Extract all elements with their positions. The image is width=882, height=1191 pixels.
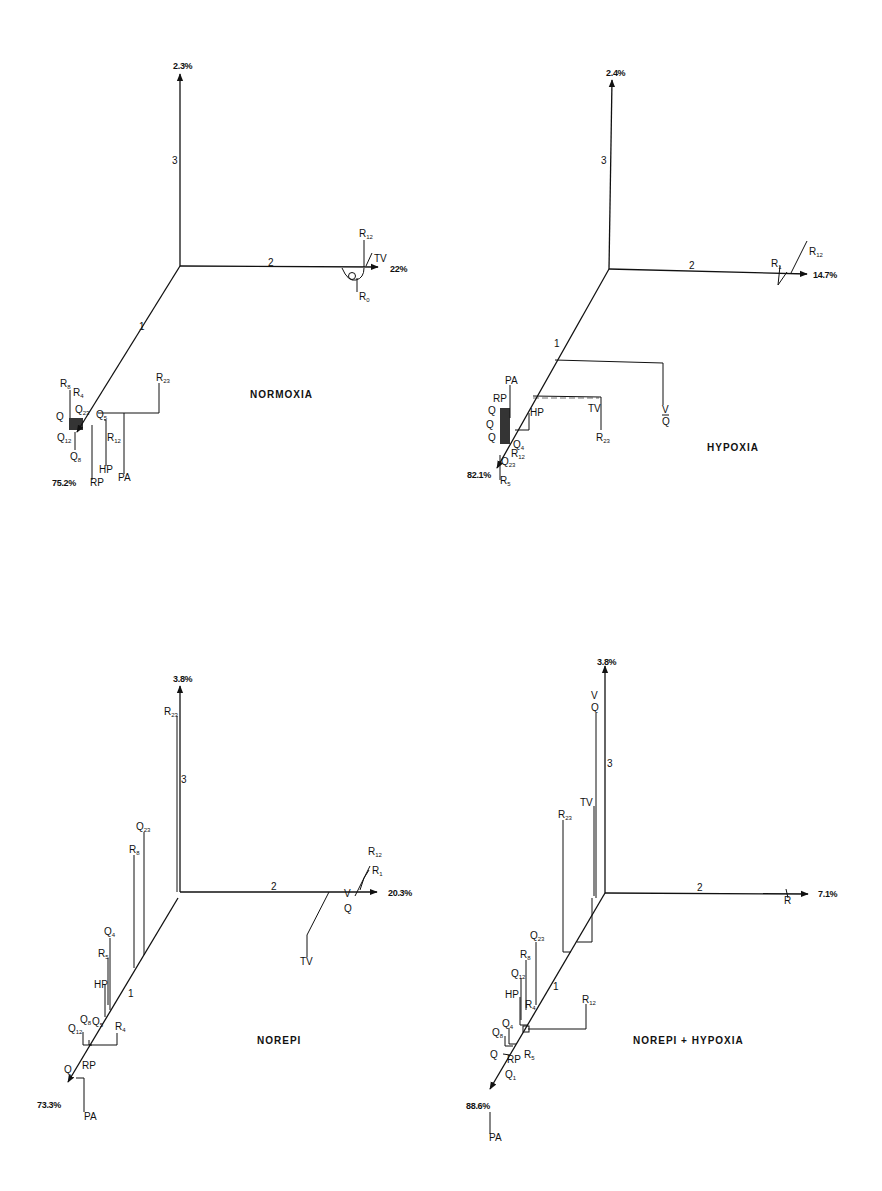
point-label: TV <box>580 797 593 808</box>
axis-3-variance: 2.4% <box>606 68 626 78</box>
point-label: HP <box>530 407 544 418</box>
axis-1-variance: 88.6% <box>466 1101 490 1111</box>
point-label: Q <box>56 411 64 422</box>
point-label: Q5 <box>92 1016 104 1028</box>
point-label: R8 <box>129 844 140 856</box>
point-label: R1 <box>372 865 383 877</box>
point-label: V <box>662 404 669 415</box>
panel-norepi-hypoxia: 3.8% 7.1% 88.6% 3 2 1 NOREPI + HYPOXIA V… <box>466 657 838 1143</box>
axis-2-label: 2 <box>268 257 274 268</box>
axis-1-variance: 82.1% <box>467 470 491 480</box>
axis-1-label: 1 <box>139 321 145 332</box>
axis-3 <box>609 80 612 269</box>
panel-title: NORMOXIA <box>250 389 313 400</box>
point-label: Q8 <box>80 1014 92 1026</box>
point-label: R5 <box>98 948 109 960</box>
point-label: R <box>784 895 791 906</box>
axis-3-label: 3 <box>601 155 607 166</box>
point-label: Q12 <box>511 968 526 980</box>
axis-1-label: 1 <box>553 981 559 992</box>
point-label: Q12 <box>57 432 72 444</box>
panel-title: NOREPI <box>257 1035 301 1046</box>
point-label: R8 <box>520 949 531 961</box>
point-label: R4 <box>115 1021 126 1033</box>
point-label: Q <box>591 702 599 713</box>
point-label: R23 <box>558 809 573 821</box>
axis-1 <box>77 266 180 432</box>
point-label: Q1 <box>505 1069 517 1081</box>
axis-1 <box>68 898 178 1082</box>
point-label: Q <box>662 416 670 427</box>
panel-norepi: 3.8% 20.3% 73.3% 3 2 1 NOREPI R23 Q23 R8… <box>37 674 412 1122</box>
point-label: R12 <box>809 246 824 258</box>
point-label: Q4 <box>104 926 116 938</box>
point-label: TV <box>588 403 601 414</box>
axis-2-variance: 20.3% <box>388 888 412 898</box>
axis-2-variance: 7.1% <box>818 889 838 899</box>
point-label: TV <box>374 253 387 264</box>
axis-2-label: 2 <box>697 882 703 893</box>
point-label: R23 <box>156 372 171 384</box>
point-label: R4 <box>73 387 84 399</box>
axis-2-label: 2 <box>689 260 695 271</box>
factor-plots-figure: 2.3% 22% 75.2% 3 2 1 NORMOXIA R12 TV R0 … <box>0 0 882 1191</box>
panel-title: NOREPI + HYPOXIA <box>633 1035 744 1046</box>
point-label: R23 <box>164 706 179 718</box>
point-label: HP <box>99 464 113 475</box>
point-label: R1 <box>771 258 782 270</box>
point-label: R5 <box>524 1049 535 1061</box>
point-label: RP <box>90 477 104 488</box>
point-label: V <box>344 888 351 899</box>
axis-1-variance: 73.3% <box>37 1100 61 1110</box>
panel-normoxia: 2.3% 22% 75.2% 3 2 1 NORMOXIA R12 TV R0 … <box>52 61 407 488</box>
point-label: HP <box>505 989 519 1000</box>
axis-3-label: 3 <box>607 758 613 769</box>
axis-2 <box>605 893 808 894</box>
point-label: Q23 <box>136 821 151 833</box>
point-label: Q5 <box>96 409 108 421</box>
axis-3-label: 3 <box>172 155 178 166</box>
point-label: R12 <box>368 846 383 858</box>
point-label: R8 <box>60 378 71 390</box>
point-label: PA <box>489 1132 502 1143</box>
point-label: Q <box>490 1049 498 1060</box>
point-label: R12 <box>107 432 122 444</box>
axis-1-label: 1 <box>128 988 134 999</box>
point-label: PA <box>84 1111 97 1122</box>
point-label: TV <box>300 956 313 967</box>
axis-1-variance: 75.2% <box>52 478 76 488</box>
panel-hypoxia: 2.4% 14.7% 82.1% 3 2 1 HYPOXIA R1 R12 V … <box>467 68 837 487</box>
point-label: Q <box>488 432 496 443</box>
point-label: R4 <box>525 999 536 1011</box>
point-label: RP <box>507 1054 521 1065</box>
point-label: HP <box>94 979 108 990</box>
panel-title: HYPOXIA <box>707 442 759 453</box>
point-label: Q8 <box>70 451 82 463</box>
point-label: Q <box>344 903 352 914</box>
axis-3-label: 3 <box>181 774 187 785</box>
point-label: R12 <box>582 994 597 1006</box>
point-label: Q <box>64 1064 72 1075</box>
axis-1-label: 1 <box>554 338 560 349</box>
point-label: PA <box>505 375 518 386</box>
point-label: Q23 <box>75 404 90 416</box>
point-label: R5 <box>500 475 511 487</box>
axis-3-variance: 2.3% <box>173 61 193 71</box>
point-label: Q23 <box>530 930 545 942</box>
axis-3-variance: 3.8% <box>173 674 193 684</box>
axis-2-label: 2 <box>271 881 277 892</box>
axis-2-variance: 14.7% <box>813 270 837 280</box>
point-label: R12 <box>359 228 374 240</box>
point-label: RP <box>82 1060 96 1071</box>
axis-2-variance: 22% <box>390 264 407 274</box>
axis-2 <box>180 266 378 267</box>
point-label: PA <box>118 472 131 483</box>
point-label: Q <box>488 405 496 416</box>
axis-3-variance: 3.8% <box>597 657 617 667</box>
point-label: RP <box>493 393 507 404</box>
point-label: Q4 <box>502 1018 514 1030</box>
point-label: V <box>591 690 598 701</box>
point-label: R23 <box>596 432 611 444</box>
point-label: Q <box>486 419 494 430</box>
point-label: R0 <box>359 291 370 303</box>
